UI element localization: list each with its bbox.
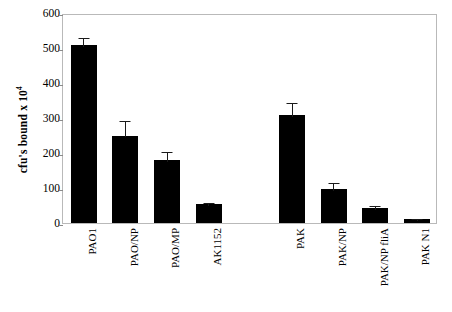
error-bar-cap [328,183,339,184]
x-axis-tick-label-text: PAK/NP [337,228,348,266]
x-axis-tick-label-text: PAK N1 [420,228,431,265]
error-bar-cap [203,203,214,204]
bar-chart-figure: cfu's bound x 104 0100200300400500600 PA… [0,0,452,312]
error-bar-stem [83,38,84,47]
bar [279,115,305,223]
error-bar [203,203,214,206]
error-bar [412,219,423,220]
y-axis-tick-label: 0 [32,218,60,230]
x-axis-tick-labels: PAO1PAO/NPPAO/MPAK1152PAKPAK/NPPAK/NP fl… [62,224,437,312]
x-axis-tick-label-text: PAO1 [87,228,98,255]
error-bar-cap [78,38,89,39]
y-axis-title-text: cfu's bound x 104 [16,86,29,173]
bar-group [313,15,355,223]
bar [196,204,222,223]
bar [321,189,347,223]
error-bar-stem [167,152,168,163]
bar-group [396,15,438,223]
x-axis-tick-label-text: PAO/MP [170,228,181,268]
error-bar-cap [162,152,173,153]
y-axis-title-exponent: 4 [15,86,24,90]
y-axis-tick-labels: 0100200300400500600 [32,0,60,312]
y-axis-tick-label: 300 [32,113,60,125]
error-bar [328,183,339,191]
error-bar [370,206,381,210]
bar [71,45,97,224]
plot-inner [63,15,436,223]
y-axis-tick-label: 200 [32,148,60,160]
bar [362,208,388,223]
error-bar-stem [125,121,126,138]
error-bar-cap [120,121,131,122]
error-bar-stem [333,183,334,191]
x-axis-tick-label-text: PAO/NP [129,228,140,266]
error-bar-stem [292,103,293,117]
y-axis-title: cfu's bound x 104 [14,60,32,200]
x-axis-tick-label-text: AK1152 [212,228,223,265]
x-axis-tick-label-text: PAK [295,228,306,249]
error-bar-cap [412,219,423,220]
bar-group [146,15,188,223]
bar-group [271,15,313,223]
y-axis-tick-label: 400 [32,78,60,90]
y-axis-tick-label: 100 [32,183,60,195]
error-bar [78,38,89,47]
error-bar [120,121,131,138]
error-bar-cap [287,103,298,104]
y-axis-title-main: cfu's bound x 10 [17,90,29,173]
plot-area [62,14,437,224]
bar-group [188,15,230,223]
y-axis-tick-label: 500 [32,43,60,55]
error-bar [162,152,173,163]
bar [112,136,138,224]
bar-group [63,15,105,223]
bar [154,160,180,223]
error-bar-cap [370,206,381,207]
x-axis-tick-label-text: PAK/NP fliA [379,228,390,286]
bar-group [355,15,397,223]
error-bar [287,103,298,117]
bar-group [105,15,147,223]
y-axis-tick-label: 600 [32,8,60,20]
